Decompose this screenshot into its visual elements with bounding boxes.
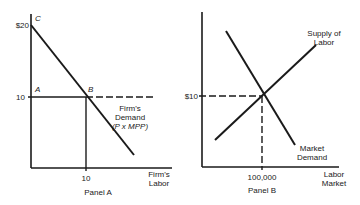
panel-a-y-tick-20: $20 [3, 21, 29, 30]
panel-a-demand-label-2: Demand [100, 113, 160, 122]
panel-b-supply-label-2: Labor [302, 38, 346, 47]
panel-b-demand-label-1: Market [292, 144, 332, 153]
panel-a-title: Panel A [78, 188, 118, 197]
panel-a-x-axis-label-2: Labor [144, 179, 174, 188]
panel-a-x-axis-label-1: Firm's [144, 170, 174, 179]
panel-b-x-axis-label-2: Market [316, 179, 352, 188]
panel-b-y-tick-10: $10 [174, 92, 198, 101]
panel-a-point-b-label: B [88, 85, 93, 94]
panel-a-demand-label-1: Firm's [100, 104, 160, 113]
panel-b-title: Panel B [242, 186, 282, 195]
panel-a-y-tick-10: 10 [3, 93, 25, 102]
panel-b-x-tick-100000: 100,000 [240, 173, 284, 182]
panel-a-point-a-label: A [35, 85, 40, 94]
panel-b-x-axis-label-1: Labor [316, 170, 352, 179]
panel-b-demand-curve [226, 31, 295, 145]
panel-b-supply-curve [215, 45, 316, 140]
panel-b-demand-label-2: Demand [292, 153, 332, 162]
panel-b-supply-label-1: Supply of [302, 29, 346, 38]
panel-a-demand-curve [31, 25, 134, 155]
panel-a-point-c-label: C [35, 14, 41, 23]
panel-a-demand-label-3: (P x MPP) [100, 122, 160, 131]
panel-a-graph [28, 14, 172, 171]
panel-a-x-tick-10: 10 [76, 174, 96, 183]
